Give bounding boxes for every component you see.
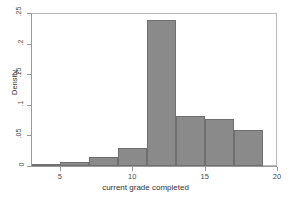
histogram-bar — [147, 20, 176, 166]
x-axis-line — [31, 166, 277, 167]
x-tick-label: 10 — [120, 172, 144, 181]
histogram-bar — [205, 119, 234, 166]
x-tick-label: 20 — [265, 172, 289, 181]
y-axis-line — [31, 13, 32, 166]
bars-layer — [31, 13, 277, 166]
x-tick-label: 15 — [193, 172, 217, 181]
x-tick-mark — [277, 167, 278, 171]
histogram-bar — [118, 148, 147, 166]
y-tick-label: .2 — [0, 39, 24, 46]
y-tick-mark — [27, 105, 31, 106]
y-tick-label: 0 — [0, 161, 24, 168]
y-tick-mark — [27, 13, 31, 14]
y-axis-title: Density — [10, 53, 19, 113]
y-tick-mark — [27, 44, 31, 45]
y-tick-mark — [27, 135, 31, 136]
x-tick-mark — [132, 167, 133, 171]
histogram-chart: 0.05.1.15.2.25 Density 5101520 current g… — [0, 0, 291, 200]
x-axis-title: current grade completed — [0, 183, 291, 192]
histogram-bar — [234, 130, 263, 166]
x-tick-mark — [60, 167, 61, 171]
y-tick-mark — [27, 74, 31, 75]
x-tick-mark — [205, 167, 206, 171]
histogram-bar — [176, 116, 205, 166]
histogram-bar — [89, 157, 118, 166]
y-tick-label: .05 — [0, 130, 24, 137]
y-tick-label: .25 — [0, 8, 24, 15]
x-tick-label: 5 — [48, 172, 72, 181]
